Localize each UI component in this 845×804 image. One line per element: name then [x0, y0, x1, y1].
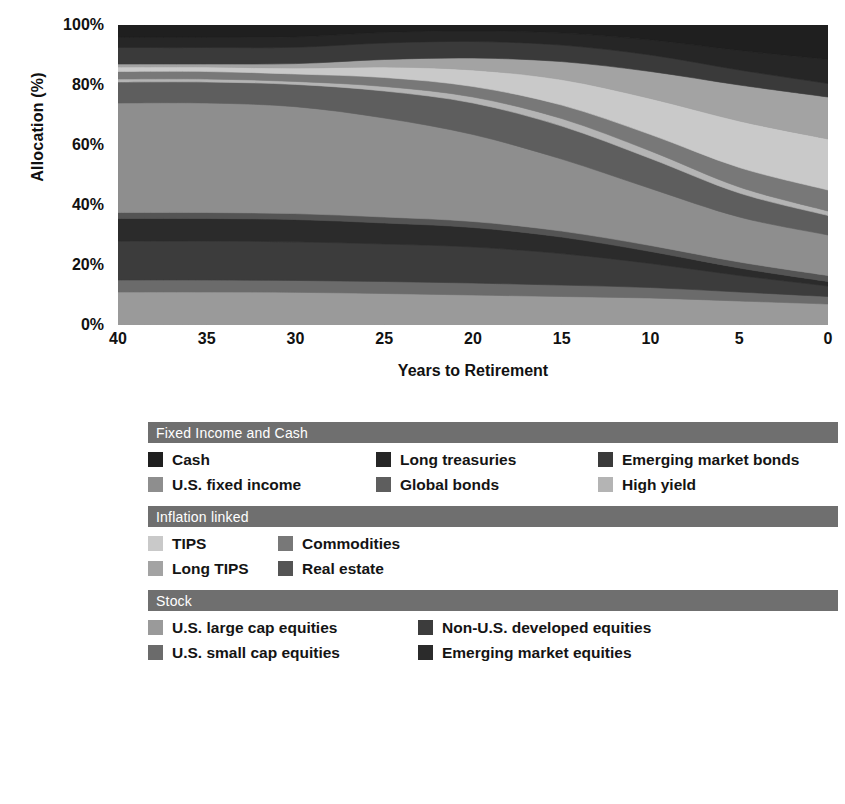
- legend-label: Cash: [172, 452, 210, 468]
- legend-row: Long TIPSReal estate: [148, 561, 838, 577]
- legend-item[interactable]: Non-U.S. developed equities: [418, 620, 651, 636]
- x-tick-label: 0: [824, 330, 833, 348]
- legend-swatch-icon: [278, 536, 293, 551]
- legend-row: U.S. small cap equitiesEmerging market e…: [148, 645, 838, 661]
- legend-group-header: Fixed Income and Cash: [148, 422, 838, 443]
- legend: Fixed Income and CashCashLong treasuries…: [148, 422, 838, 674]
- x-tick-label: 20: [464, 330, 482, 348]
- legend-group-header: Inflation linked: [148, 506, 838, 527]
- legend-label: Non-U.S. developed equities: [442, 620, 651, 636]
- legend-item[interactable]: U.S. large cap equities: [148, 620, 418, 636]
- legend-swatch-icon: [148, 620, 163, 635]
- legend-swatch-icon: [278, 561, 293, 576]
- legend-group: Inflation linkedTIPSCommoditiesLong TIPS…: [148, 506, 838, 576]
- legend-swatch-icon: [148, 452, 163, 467]
- legend-label: U.S. fixed income: [172, 477, 301, 493]
- x-tick-label: 35: [198, 330, 216, 348]
- legend-swatch-icon: [598, 452, 613, 467]
- legend-item[interactable]: High yield: [598, 477, 696, 493]
- y-tick-label: 100%: [63, 16, 104, 34]
- y-tick-label: 20%: [72, 256, 104, 274]
- legend-label: Emerging market equities: [442, 645, 632, 661]
- legend-group: StockU.S. large cap equitiesNon-U.S. dev…: [148, 590, 838, 660]
- legend-item[interactable]: U.S. small cap equities: [148, 645, 418, 661]
- x-axis-ticks: 4035302520151050: [118, 330, 828, 354]
- legend-item[interactable]: Long TIPS: [148, 561, 278, 577]
- plot-area: [118, 25, 828, 325]
- x-tick-label: 10: [642, 330, 660, 348]
- legend-swatch-icon: [148, 536, 163, 551]
- legend-label: Real estate: [302, 561, 384, 577]
- legend-row: CashLong treasuriesEmerging market bonds: [148, 452, 838, 468]
- legend-swatch-icon: [376, 452, 391, 467]
- legend-swatch-icon: [376, 477, 391, 492]
- legend-item[interactable]: U.S. fixed income: [148, 477, 376, 493]
- legend-label: Emerging market bonds: [622, 452, 799, 468]
- legend-label: U.S. large cap equities: [172, 620, 337, 636]
- x-tick-label: 30: [287, 330, 305, 348]
- glide-path-figure: Allocation (%) 100%80%60%40%20%0% 403530…: [0, 0, 845, 804]
- y-axis-ticks: 100%80%60%40%20%0%: [0, 25, 112, 325]
- x-tick-label: 25: [375, 330, 393, 348]
- legend-item[interactable]: Commodities: [278, 536, 400, 552]
- x-tick-label: 15: [553, 330, 571, 348]
- legend-item[interactable]: Emerging market bonds: [598, 452, 799, 468]
- legend-swatch-icon: [598, 477, 613, 492]
- legend-label: U.S. small cap equities: [172, 645, 340, 661]
- legend-group-header: Stock: [148, 590, 838, 611]
- legend-label: TIPS: [172, 536, 206, 552]
- legend-label: High yield: [622, 477, 696, 493]
- area-series-svg: [118, 25, 828, 325]
- y-tick-label: 0%: [81, 316, 104, 334]
- x-tick-label: 40: [109, 330, 127, 348]
- legend-group: Fixed Income and CashCashLong treasuries…: [148, 422, 838, 492]
- x-tick-label: 5: [735, 330, 744, 348]
- legend-swatch-icon: [418, 645, 433, 660]
- legend-row: TIPSCommodities: [148, 536, 838, 552]
- legend-swatch-icon: [418, 620, 433, 635]
- y-tick-label: 80%: [72, 76, 104, 94]
- legend-group-title: Stock: [156, 594, 192, 608]
- legend-item[interactable]: TIPS: [148, 536, 278, 552]
- y-tick-label: 40%: [72, 196, 104, 214]
- legend-row: U.S. large cap equitiesNon-U.S. develope…: [148, 620, 838, 636]
- legend-swatch-icon: [148, 561, 163, 576]
- x-axis-title: Years to Retirement: [118, 362, 828, 380]
- legend-swatch-icon: [148, 645, 163, 660]
- legend-label: Global bonds: [400, 477, 499, 493]
- legend-label: Long TIPS: [172, 561, 249, 577]
- legend-row: U.S. fixed incomeGlobal bondsHigh yield: [148, 477, 838, 493]
- legend-label: Commodities: [302, 536, 400, 552]
- legend-item[interactable]: Cash: [148, 452, 376, 468]
- legend-item[interactable]: Real estate: [278, 561, 384, 577]
- legend-item[interactable]: Global bonds: [376, 477, 598, 493]
- legend-label: Long treasuries: [400, 452, 516, 468]
- legend-swatch-icon: [148, 477, 163, 492]
- legend-item[interactable]: Long treasuries: [376, 452, 598, 468]
- stacked-area-chart: Allocation (%) 100%80%60%40%20%0% 403530…: [0, 0, 845, 400]
- legend-item[interactable]: Emerging market equities: [418, 645, 632, 661]
- legend-group-title: Fixed Income and Cash: [156, 426, 308, 440]
- legend-group-title: Inflation linked: [156, 510, 249, 524]
- y-tick-label: 60%: [72, 136, 104, 154]
